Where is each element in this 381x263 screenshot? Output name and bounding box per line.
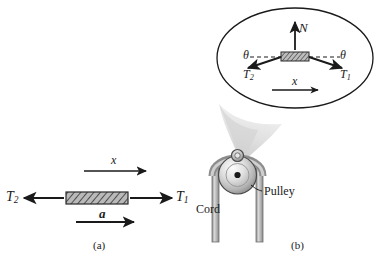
pulley-label: Pulley: [264, 185, 295, 197]
figure-canvas: [0, 0, 381, 263]
inset-angle-right-label: θ: [340, 49, 346, 61]
inset-tension-left-label: T2: [243, 68, 254, 82]
cord-strand-right: [256, 166, 263, 242]
cord-label: Cord: [196, 203, 220, 215]
panel-a-x-label: x: [111, 154, 116, 166]
panel-a-block: [66, 192, 128, 204]
panel-a-label: (a): [93, 240, 105, 251]
panel-a-graphics: [24, 171, 172, 222]
panel-a-tension-right-label: T1: [176, 190, 189, 206]
panel-a-acceleration-label: a: [99, 207, 106, 220]
inset-angle-left-label: θ: [243, 49, 249, 61]
inset-block: [281, 52, 309, 61]
panel-b-magnifier-cone: [219, 104, 282, 163]
inset-tension-right-label: T1: [340, 68, 351, 82]
panel-b-cord-and-pulley: [212, 150, 263, 243]
physics-figure: x T2 T1 a (a) Cord Pulley (b) N θ θ T2 T…: [0, 0, 381, 263]
panel-b-label: (b): [291, 240, 304, 251]
pulley-axle: [234, 172, 240, 178]
inset-x-label: x: [292, 75, 297, 87]
panel-b-inset: [217, 8, 373, 108]
panel-a-tension-left-label: T2: [6, 190, 19, 206]
inset-normal-force-label: N: [299, 21, 308, 34]
